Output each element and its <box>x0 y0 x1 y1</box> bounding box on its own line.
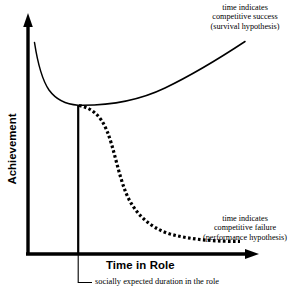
annotation-performance-line-3: (performance hypothesis) <box>191 233 299 242</box>
y-axis <box>23 13 33 254</box>
annotation-survival-line-3: (survival hypothesis) <box>191 22 299 31</box>
duration-leader-line <box>78 255 92 283</box>
figure-container: time indicates competitive success (surv… <box>0 0 301 298</box>
annotation-survival-line-1: time indicates <box>191 3 299 12</box>
annotation-performance-line-2: competitive failure <box>191 223 299 232</box>
x-axis <box>26 249 259 259</box>
y-axis-title: Achievement <box>6 99 18 199</box>
chart-canvas <box>0 0 301 298</box>
annotation-performance-line-1: time indicates <box>191 214 299 223</box>
annotation-survival-line-2: competitive success <box>191 12 299 21</box>
survival-curve <box>35 42 246 106</box>
x-axis-title: Time in Role <box>106 259 175 271</box>
annotation-survival: time indicates competitive success (surv… <box>191 3 299 31</box>
annotation-expected-duration: socially expected duration in the role <box>95 277 219 286</box>
annotation-performance: time indicates competitive failure (perf… <box>191 214 299 242</box>
